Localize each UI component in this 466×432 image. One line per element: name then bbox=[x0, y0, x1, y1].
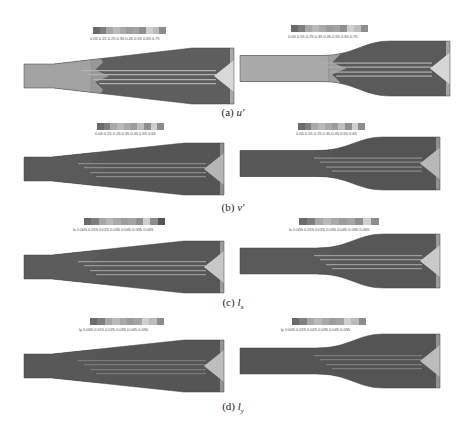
caption-d-label: (d) bbox=[222, 400, 235, 412]
colorbar-a-right-ticks: 0.05 0.15 0.25 0.35 0.45 0.55 0.65 0.75 bbox=[288, 34, 357, 39]
contour-plot-a-right bbox=[240, 41, 450, 96]
colorbar-d-left-values: 0.005 0.015 0.025 0.035 0.045 0.055 bbox=[83, 327, 148, 332]
colorbar-d-right-ticks: ly 0.005 0.015 0.025 0.035 0.045 0.055 bbox=[281, 327, 350, 332]
caption-d: (d) ly bbox=[0, 400, 466, 415]
contour-plot-d-right bbox=[240, 334, 440, 388]
colorbar-d-left-ticks: ly 0.005 0.015 0.025 0.035 0.045 0.055 bbox=[79, 327, 148, 332]
colorbar-d-left bbox=[90, 318, 164, 325]
colorbar-b-left-ticks: 0.05 0.15 0.25 0.35 0.45 0.55 0.65 bbox=[95, 131, 156, 136]
colorbar-a-left-ticks: 0.05 0.15 0.25 0.35 0.45 0.55 0.65 0.75 bbox=[90, 36, 159, 41]
colorbar-c-right-values: 0.005 0.015 0.025 0.035 0.045 0.055 0.06… bbox=[293, 227, 369, 232]
colorbar-b-left bbox=[97, 123, 164, 130]
contour-plot-d-left bbox=[24, 340, 224, 392]
colorbar-c-right-var: lx bbox=[289, 227, 292, 232]
caption-a-variable: u' bbox=[237, 106, 245, 118]
colorbar-a-left bbox=[93, 27, 166, 34]
colorbar-d-right bbox=[292, 318, 366, 325]
caption-c-label: (c) bbox=[222, 296, 234, 308]
colorbar-d-left-var: ly bbox=[79, 327, 82, 332]
contour-plot-c-right bbox=[240, 234, 440, 288]
caption-d-subscript: y bbox=[241, 407, 244, 415]
contour-plot-b-left bbox=[24, 143, 224, 195]
colorbar-c-left-values: 0.005 0.015 0.025 0.035 0.045 0.055 0.06… bbox=[77, 227, 153, 232]
contour-plot-c-left bbox=[24, 241, 224, 293]
caption-b-variable: v' bbox=[237, 201, 244, 213]
contour-plot-b-right bbox=[240, 137, 440, 190]
caption-c: (c) lx bbox=[0, 296, 466, 311]
colorbar-c-left-var: lx bbox=[73, 227, 76, 232]
caption-b: (b) v' bbox=[0, 201, 466, 213]
colorbar-a-right bbox=[291, 25, 368, 32]
colorbar-c-right-ticks: lx 0.005 0.015 0.025 0.035 0.045 0.055 0… bbox=[289, 227, 369, 232]
colorbar-b-right-ticks: 0.05 0.15 0.25 0.35 0.45 0.55 0.65 bbox=[296, 131, 357, 136]
contour-plot-a-left bbox=[24, 48, 234, 104]
colorbar-b-right bbox=[298, 123, 365, 130]
caption-a-label: (a) bbox=[222, 106, 234, 118]
colorbar-c-right bbox=[299, 218, 379, 225]
colorbar-c-left-ticks: lx 0.005 0.015 0.025 0.035 0.045 0.055 0… bbox=[73, 227, 153, 232]
caption-b-label: (b) bbox=[222, 201, 235, 213]
colorbar-d-right-var: ly bbox=[281, 327, 284, 332]
caption-c-subscript: x bbox=[240, 303, 243, 311]
colorbar-d-right-values: 0.005 0.015 0.025 0.035 0.045 0.055 bbox=[285, 327, 350, 332]
caption-a: (a) u' bbox=[0, 106, 466, 118]
colorbar-c-left bbox=[84, 218, 165, 225]
